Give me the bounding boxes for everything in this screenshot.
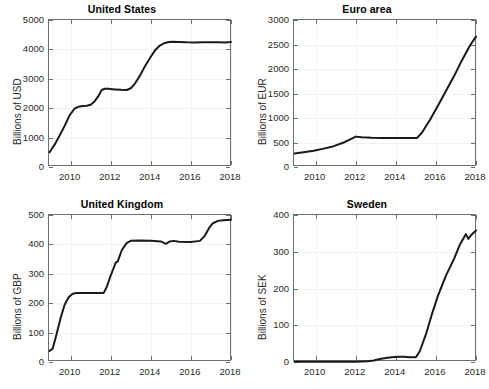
y-axis-tick bbox=[294, 167, 298, 168]
x-axis-tick-label: 2010 bbox=[304, 366, 325, 377]
y-axis-tick-label: 500 bbox=[0, 209, 44, 220]
x-axis-tick-label: 2016 bbox=[179, 171, 200, 182]
y-axis-tick-label: 1500 bbox=[245, 87, 289, 98]
y-axis-tick-label: 3000 bbox=[0, 72, 44, 83]
chart-panel-euro-area: Euro area Billions of EUR 05001000150020… bbox=[245, 0, 489, 194]
y-axis-tick-label: 0 bbox=[245, 161, 289, 172]
y-axis-tick-label: 0 bbox=[0, 161, 44, 172]
plot-area-united-kingdom bbox=[48, 214, 231, 361]
y-axis-tick-label: 0 bbox=[0, 356, 44, 367]
data-line-sweden bbox=[295, 230, 476, 361]
x-axis-tick-label: 2012 bbox=[344, 171, 365, 182]
y-axis-tick bbox=[49, 362, 53, 363]
x-axis-tick-label: 2014 bbox=[139, 366, 160, 377]
series-layer-euro-area bbox=[294, 20, 477, 167]
data-line-euro-area bbox=[295, 37, 476, 154]
y-axis-tick-right bbox=[471, 362, 475, 363]
plot-area-sweden bbox=[293, 214, 476, 361]
y-axis-tick-label: 300 bbox=[0, 267, 44, 278]
y-axis-tick-label: 2500 bbox=[245, 38, 289, 49]
x-axis-tick-label: 2012 bbox=[99, 171, 120, 182]
chart-panel-united-kingdom: United Kingdom Billions of GBP 010020030… bbox=[0, 195, 244, 389]
x-axis-tick-label: 2012 bbox=[344, 366, 365, 377]
x-axis-tick-label: 2018 bbox=[464, 366, 485, 377]
y-axis-tick-right bbox=[226, 167, 230, 168]
x-axis-tick-label: 2018 bbox=[219, 171, 240, 182]
x-axis-tick-label: 2014 bbox=[384, 366, 405, 377]
chart-panel-sweden: Sweden Billions of SEK 01002003004002010… bbox=[245, 195, 489, 389]
plot-area-euro-area bbox=[293, 19, 476, 166]
x-axis-tick-label: 2016 bbox=[424, 171, 445, 182]
x-axis-tick-label: 2012 bbox=[99, 366, 120, 377]
y-axis-tick-label: 3000 bbox=[245, 14, 289, 25]
figure-panel-grid: United States Billions of USD 0100020003… bbox=[0, 0, 489, 389]
x-axis-tick-label: 2018 bbox=[219, 366, 240, 377]
x-axis-tick-label: 2018 bbox=[464, 171, 485, 182]
y-axis-tick-label: 500 bbox=[245, 136, 289, 147]
series-layer-sweden bbox=[294, 215, 477, 362]
y-axis-tick-label: 200 bbox=[245, 282, 289, 293]
y-axis-tick-label: 2000 bbox=[245, 63, 289, 74]
chart-panel-united-states: United States Billions of USD 0100020003… bbox=[0, 0, 244, 194]
plot-area-united-states bbox=[48, 19, 231, 166]
y-axis-tick-right bbox=[226, 362, 230, 363]
x-axis-tick-label: 2010 bbox=[59, 366, 80, 377]
y-axis-tick-label: 300 bbox=[245, 245, 289, 256]
y-axis-tick-right bbox=[471, 167, 475, 168]
y-axis-tick-label: 400 bbox=[0, 238, 44, 249]
series-layer-united-kingdom bbox=[49, 215, 232, 362]
y-axis-tick-label: 0 bbox=[245, 356, 289, 367]
x-axis-tick-label: 2014 bbox=[139, 171, 160, 182]
data-line-united-kingdom bbox=[50, 220, 231, 351]
y-axis-tick-label: 200 bbox=[0, 297, 44, 308]
y-axis-tick-label: 4000 bbox=[0, 43, 44, 54]
x-axis-tick-label: 2014 bbox=[384, 171, 405, 182]
y-axis-tick-label: 2000 bbox=[0, 102, 44, 113]
y-axis-tick-label: 1000 bbox=[245, 112, 289, 123]
data-line-united-states bbox=[50, 42, 231, 153]
y-axis-tick-label: 5000 bbox=[0, 14, 44, 25]
y-axis-tick-label: 1000 bbox=[0, 131, 44, 142]
series-layer-united-states bbox=[49, 20, 232, 167]
x-axis-tick-label: 2016 bbox=[179, 366, 200, 377]
y-axis-tick-label: 400 bbox=[245, 209, 289, 220]
x-axis-tick-label: 2010 bbox=[304, 171, 325, 182]
y-axis-tick-label: 100 bbox=[0, 326, 44, 337]
y-axis-tick-label: 100 bbox=[245, 319, 289, 330]
y-axis-tick bbox=[49, 167, 53, 168]
x-axis-tick-label: 2016 bbox=[424, 366, 445, 377]
x-axis-tick-label: 2010 bbox=[59, 171, 80, 182]
